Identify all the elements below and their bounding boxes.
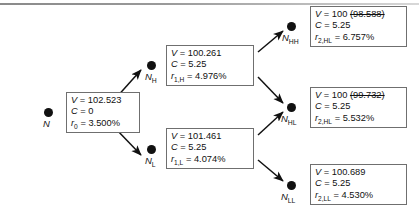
info-nhl-coupon: C = 5.25 bbox=[315, 101, 402, 112]
info-nhl-value-struck: (99.732) bbox=[350, 90, 385, 100]
info-nh-rate: r1,H = 4.976% bbox=[171, 71, 249, 82]
info-nl-value: V = 101.461 bbox=[171, 131, 249, 142]
info-root-rate: r0 = 3.500% bbox=[71, 118, 135, 129]
node-nhh-label: NHH bbox=[282, 32, 299, 45]
node-nl[interactable] bbox=[147, 145, 156, 154]
info-nl-rate: r1,L = 4.074% bbox=[171, 154, 249, 165]
node-nh-label: NH bbox=[145, 71, 157, 84]
info-nhl-value: V = 100 (99.732) bbox=[315, 90, 402, 101]
info-box-nhl: V = 100 (99.732) C = 5.25 r2,HL = 5.532% bbox=[310, 87, 407, 128]
info-nll-value: V = 100.689 bbox=[315, 167, 402, 178]
info-box-nll: V = 100.689 C = 5.25 r2,LL = 4.530% bbox=[310, 164, 407, 205]
node-nhl-label: NHL bbox=[281, 113, 296, 126]
info-nhh-value-struck: (98.588) bbox=[350, 9, 385, 19]
node-root[interactable] bbox=[44, 108, 53, 117]
info-nhh-value: V = 100 (98.588) bbox=[315, 9, 402, 20]
info-nhl-rate: r2,HL = 5.532% bbox=[315, 113, 402, 124]
node-nl-label: NL bbox=[145, 155, 156, 168]
edge-nh-to-nhl bbox=[258, 77, 283, 103]
node-root-label: N bbox=[43, 118, 50, 131]
edge-nl-to-nhl bbox=[258, 112, 283, 135]
node-nhl[interactable] bbox=[287, 103, 296, 112]
edge-nh-to-nhh bbox=[258, 31, 283, 52]
info-box-nl: V = 101.461 C = 5.25 r1,L = 4.074% bbox=[166, 128, 254, 169]
info-box-nhh: V = 100 (98.588) C = 5.25 r2,HL = 6.757% bbox=[310, 6, 407, 47]
info-nh-value: V = 100.261 bbox=[171, 48, 249, 59]
info-nh-coupon: C = 5.25 bbox=[171, 59, 249, 70]
edge-nl-to-nll bbox=[258, 160, 283, 181]
info-nhh-rate: r2,HL = 6.757% bbox=[315, 32, 402, 43]
info-nhh-coupon: C = 5.25 bbox=[315, 20, 402, 31]
info-root-coupon: C = 0 bbox=[71, 106, 135, 117]
node-nh[interactable] bbox=[147, 61, 156, 70]
info-nll-coupon: C = 5.25 bbox=[315, 178, 402, 189]
node-nhh[interactable] bbox=[287, 22, 296, 31]
info-nl-coupon: C = 5.25 bbox=[171, 142, 249, 153]
info-root-value: V = 102.523 bbox=[71, 95, 135, 106]
diagram-canvas: N V = 102.523 C = 0 r0 = 3.500% NH V = 1… bbox=[0, 0, 419, 215]
info-nll-rate: r2,LL = 4.530% bbox=[315, 190, 402, 201]
info-box-nh: V = 100.261 C = 5.25 r1,H = 4.976% bbox=[166, 45, 254, 86]
node-nll[interactable] bbox=[287, 181, 296, 190]
info-box-root: V = 102.523 C = 0 r0 = 3.500% bbox=[66, 92, 140, 133]
node-nll-label: NLL bbox=[281, 191, 295, 204]
